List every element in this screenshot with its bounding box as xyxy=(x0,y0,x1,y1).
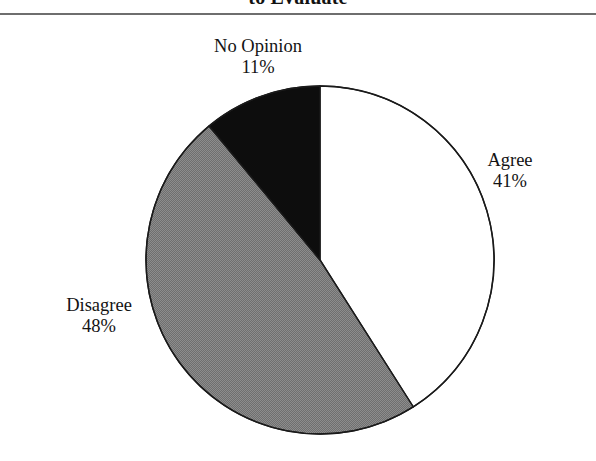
slice-label-agree-name: Agree xyxy=(440,150,580,171)
slice-label-no-opinion-value: 11% xyxy=(158,57,358,78)
slice-label-no-opinion-name: No Opinion xyxy=(158,36,358,57)
slice-label-agree: Agree 41% xyxy=(440,150,580,192)
slice-label-disagree-name: Disagree xyxy=(14,295,184,316)
slice-label-no-opinion: No Opinion 11% xyxy=(158,36,358,78)
pie-chart-page: to Evaluate No Opinion 11% Agree 41% Dis… xyxy=(0,0,596,461)
slice-label-disagree: Disagree 48% xyxy=(14,295,184,337)
slice-label-agree-value: 41% xyxy=(440,171,580,192)
slice-label-disagree-value: 48% xyxy=(14,316,184,337)
